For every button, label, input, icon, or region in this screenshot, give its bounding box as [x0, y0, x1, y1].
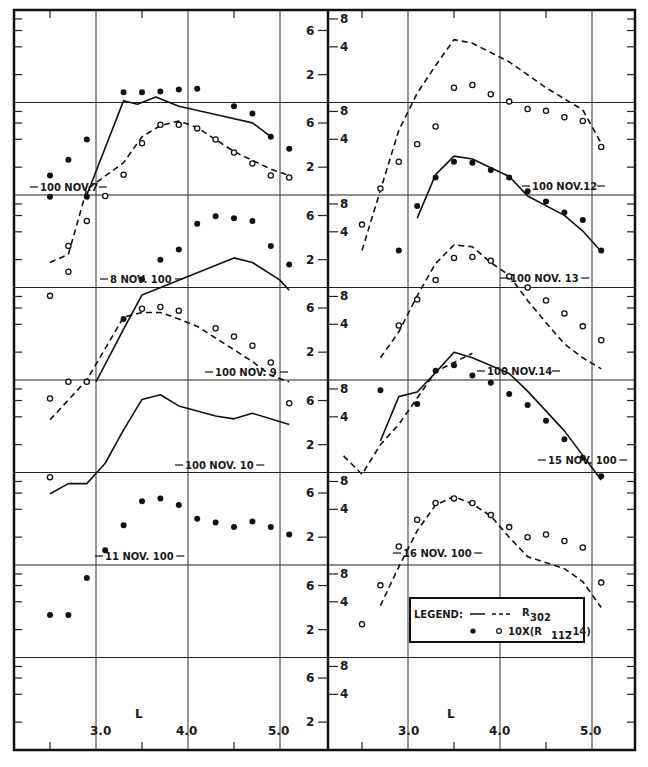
data-point-filled [176, 247, 182, 253]
data-point-filled [176, 502, 182, 508]
y-tick-left: 2 [306, 530, 314, 544]
x-tick-5.0-left: 5.0 [268, 724, 289, 738]
data-point-filled [451, 159, 457, 165]
legend-filled-dot [470, 628, 475, 633]
data-point-open [268, 360, 273, 365]
data-point-filled [598, 248, 604, 254]
data-point-open [287, 401, 292, 406]
data-point-filled [249, 218, 255, 224]
curve-label: 11 NOV. 100 [105, 551, 174, 562]
y-tick-right: 4 [340, 410, 348, 424]
data-point-open [287, 175, 292, 180]
data-point-open [562, 115, 567, 120]
data-point-open [470, 500, 475, 505]
data-point-filled [249, 111, 255, 117]
data-point-filled [377, 387, 383, 393]
data-point-filled [268, 524, 274, 530]
data-point-open [543, 532, 548, 537]
data-point-filled [194, 221, 200, 227]
data-point-filled [194, 86, 200, 92]
y-tick-left: 2 [306, 345, 314, 359]
data-point-filled [286, 146, 292, 152]
data-point-filled [84, 194, 90, 200]
data-point-filled [580, 217, 586, 223]
y-tick-left: 6 [306, 301, 314, 315]
data-point-filled [65, 157, 71, 163]
curve-label: 100 NOV. 9 [215, 367, 277, 378]
y-tick-left: 6 [306, 579, 314, 593]
y-tick-left: 6 [306, 209, 314, 223]
curve-label: 100 NOV.14 [487, 366, 552, 377]
curve-solid [87, 97, 271, 195]
data-point-open [562, 538, 567, 543]
y-tick-right: 4 [340, 502, 348, 516]
data-point-open [415, 517, 420, 522]
data-point-open [415, 142, 420, 147]
y-tick-left: 6 [306, 671, 314, 685]
data-point-open [451, 496, 456, 501]
data-point-open [396, 159, 401, 164]
y-tick-right: 4 [340, 132, 348, 146]
data-point-open [378, 583, 383, 588]
curve-dashed [362, 40, 601, 251]
y-tick-right: 8 [340, 104, 348, 118]
y-tick-left: 2 [306, 438, 314, 452]
curve-label: 100 NOV.12 [532, 181, 597, 192]
data-point-filled [268, 134, 274, 140]
data-point-open [139, 306, 144, 311]
data-point-filled [506, 174, 512, 180]
legend: LEGEND: R 302 10X(R 112 −14) [410, 598, 591, 642]
data-point-open [433, 278, 438, 283]
data-point-filled [157, 88, 163, 94]
x-axis-label-right: L [447, 707, 455, 721]
data-point-open [84, 379, 89, 384]
data-point-open [158, 304, 163, 309]
data-point-open [139, 141, 144, 146]
y-tick-left: 6 [306, 116, 314, 130]
data-point-open [470, 82, 475, 87]
curve-solid [417, 156, 601, 251]
curve-label: 100 NOV. 13 [510, 273, 579, 284]
legend-r112-pre: 10X(R [508, 626, 542, 637]
data-point-open [580, 324, 585, 329]
data-point-filled [157, 495, 163, 501]
data-point-filled [469, 372, 475, 378]
data-point-open [488, 92, 493, 97]
data-point-open [176, 122, 181, 127]
x-axis-label-left: L [135, 707, 143, 721]
legend-r302: R [522, 607, 530, 618]
chart-figure: 24682468246824682468246824682468 100 NOV… [0, 0, 648, 767]
data-point-open [213, 137, 218, 142]
data-point-open [176, 308, 181, 313]
data-point-filled [561, 436, 567, 442]
data-point-open [378, 186, 383, 191]
curve-label: 16 NOV. 100 [403, 548, 472, 559]
data-point-filled [121, 89, 127, 95]
data-point-open [451, 85, 456, 90]
y-tick-right: 4 [340, 595, 348, 609]
y-tick-right: 4 [340, 687, 348, 701]
data-point-open [415, 297, 420, 302]
y-tick-left: 6 [306, 486, 314, 500]
data-point-open [250, 343, 255, 348]
data-point-filled [139, 89, 145, 95]
y-tick-right: 8 [340, 382, 348, 396]
y-tick-right: 8 [340, 659, 348, 673]
curve-label: 8 NOV. 100 [110, 274, 172, 285]
y-tick-right: 8 [340, 474, 348, 488]
data-point-open [488, 258, 493, 263]
data-point-filled [213, 213, 219, 219]
y-tick-right: 8 [340, 197, 348, 211]
data-point-open [580, 545, 585, 550]
data-point-filled [414, 401, 420, 407]
data-point-filled [561, 210, 567, 216]
data-point-filled [139, 498, 145, 504]
data-series [47, 40, 604, 627]
legend-open-dot [497, 629, 502, 634]
data-point-filled [414, 203, 420, 209]
data-point-open [396, 544, 401, 549]
y-tick-right: 4 [340, 317, 348, 331]
data-point-filled [249, 519, 255, 525]
data-point-filled [84, 575, 90, 581]
data-point-filled [286, 531, 292, 537]
